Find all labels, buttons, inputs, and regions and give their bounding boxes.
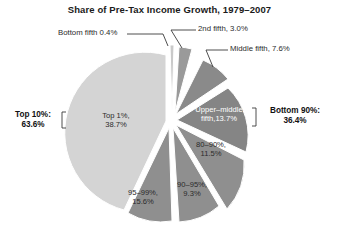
- group-label-bottom-90-percent-line2: 36.4%: [259, 116, 331, 126]
- slice-label-80-90-line2: 11.5%: [186, 149, 236, 158]
- slice-label-top-1-percent-line2: 38.7%: [95, 120, 137, 129]
- pie-chart-figure: Share of Pre-Tax Income Growth, 1979–200…: [0, 0, 339, 243]
- leader-line-second-fifth: [171, 30, 196, 48]
- group-label-top-10-percent-line2: 63.6%: [6, 120, 60, 130]
- slice-label-95-99: 95–99%, 15.6%: [119, 188, 167, 207]
- slice-label-80-90-line1: 80–90%,: [186, 140, 236, 149]
- slice-label-90-95-line1: 90–95%,: [170, 180, 214, 189]
- group-label-bottom-90-percent-line1: Bottom 90%:: [259, 106, 331, 116]
- callout-bottom-fifth: Bottom fifth 0.4%: [58, 28, 117, 37]
- slice-label-90-95: 90–95%, 9.3%: [170, 180, 214, 199]
- slice-label-95-99-line1: 95–99%,: [119, 188, 167, 197]
- group-label-top-10-percent-line1: Top 10%:: [6, 110, 60, 120]
- slice-label-top-1-percent: Top 1%, 38.7%: [95, 111, 137, 130]
- slice-label-top-1-percent-line1: Top 1%,: [95, 111, 137, 120]
- bracket-bottom-90: [252, 108, 256, 126]
- slice-label-upper-middle-fifth: Upper–middle fifth,13.7%: [188, 105, 250, 124]
- pie-slice-bottom-fifth[interactable]: [170, 45, 174, 111]
- callout-second-fifth: 2nd fifth, 3.0%: [198, 24, 248, 33]
- callout-middle-fifth: Middle fifth, 7.6%: [230, 44, 290, 53]
- leader-line-bottom-fifth: [127, 34, 168, 46]
- slice-label-80-90: 80–90%, 11.5%: [186, 140, 236, 159]
- group-label-bottom-90-percent: Bottom 90%: 36.4%: [259, 106, 331, 127]
- slice-label-95-99-line2: 15.6%: [119, 197, 167, 206]
- slice-label-upper-middle-fifth-line1: Upper–middle: [188, 105, 250, 114]
- group-label-top-10-percent: Top 10%: 63.6%: [6, 110, 60, 131]
- slice-label-upper-middle-fifth-line2: fifth,13.7%: [188, 114, 250, 123]
- slice-label-90-95-line2: 9.3%: [170, 189, 214, 198]
